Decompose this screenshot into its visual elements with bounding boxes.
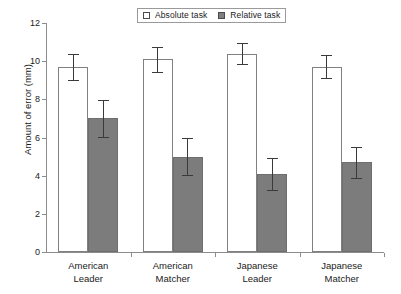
error-bar-cap-bottom <box>68 80 79 81</box>
error-bar-cap-bottom <box>98 137 109 138</box>
y-axis-tick-label: 10 <box>18 57 40 66</box>
error-bar-cap-bottom <box>237 64 248 65</box>
y-axis-tick <box>42 176 46 177</box>
error-bar-absolute-0 <box>68 54 79 81</box>
error-bar-cap-bottom <box>182 175 193 176</box>
x-axis-category-line-0: Japanese <box>209 260 305 273</box>
y-axis-tick <box>42 61 46 62</box>
y-axis-tick-label: 0 <box>18 248 40 257</box>
chart-legend: Absolute task Relative task <box>137 8 286 23</box>
error-bar-stem <box>356 147 357 178</box>
error-bar-relative-0 <box>98 100 109 136</box>
error-bar-stem <box>242 43 243 64</box>
x-axis-category-label: AmericanMatcher <box>125 260 221 285</box>
error-bar-cap-top <box>267 158 278 159</box>
error-bar-stem <box>187 138 188 174</box>
error-bar-stem <box>272 158 273 190</box>
error-bar-cap-top <box>321 55 332 56</box>
x-axis-category-label: JapaneseMatcher <box>294 260 390 285</box>
x-axis-tick <box>131 253 132 257</box>
x-axis-category-line-1: Matcher <box>294 273 390 286</box>
x-axis-category-line-1: Leader <box>209 273 305 286</box>
error-bar-stem <box>103 100 104 136</box>
y-axis-tick-label: 6 <box>18 133 40 142</box>
y-axis-tick-labels: 024681012 <box>18 0 40 294</box>
x-axis-category-line-0: Japanese <box>294 260 390 273</box>
error-bar-absolute-3 <box>321 55 332 78</box>
y-axis-tick <box>42 138 46 139</box>
error-bar-cap-top <box>98 100 109 101</box>
x-axis-category-line-0: American <box>125 260 221 273</box>
error-bar-relative-1 <box>182 138 193 174</box>
y-axis-tick <box>42 23 46 24</box>
y-axis-tick <box>42 214 46 215</box>
error-bar-stem <box>73 54 74 81</box>
bar-absolute-0 <box>58 67 88 252</box>
error-bar-cap-top <box>182 138 193 139</box>
error-bar-cap-top <box>237 43 248 44</box>
x-axis-tick <box>384 253 385 257</box>
error-bar-cap-top <box>152 47 163 48</box>
bar-absolute-2 <box>227 54 257 252</box>
error-bar-absolute-1 <box>152 47 163 72</box>
y-axis-tick <box>42 252 46 253</box>
y-axis-line <box>46 23 47 252</box>
error-bar-relative-3 <box>351 147 362 178</box>
filled-square-swatch-icon <box>218 12 225 19</box>
error-bar-cap-bottom <box>152 72 163 73</box>
bar-absolute-3 <box>312 67 342 252</box>
bar-absolute-1 <box>143 59 173 252</box>
open-square-swatch-icon <box>143 12 150 19</box>
y-axis-tick <box>42 99 46 100</box>
error-bar-cap-bottom <box>351 178 362 179</box>
legend-entry-relative-task: Relative task <box>218 11 280 20</box>
x-axis-tick <box>300 253 301 257</box>
legend-label-absolute-task: Absolute task <box>155 11 207 20</box>
legend-entry-absolute-task: Absolute task <box>143 11 207 20</box>
plot-area: AmericanLeaderAmericanMatcherJapaneseLea… <box>46 23 384 252</box>
error-bar-stem <box>326 55 327 78</box>
y-axis-tick-label: 8 <box>18 95 40 104</box>
y-axis-tick-label: 2 <box>18 209 40 218</box>
error-bar-cap-top <box>68 54 79 55</box>
y-axis-tick-label: 12 <box>18 19 40 28</box>
x-axis-category-label: AmericanLeader <box>40 260 136 285</box>
x-axis-category-label: JapaneseLeader <box>209 260 305 285</box>
bar-chart-figure: Absolute task Relative task Amount of er… <box>0 0 401 294</box>
error-bar-absolute-2 <box>237 43 248 64</box>
error-bar-cap-bottom <box>321 78 332 79</box>
error-bar-cap-bottom <box>267 190 278 191</box>
x-axis-category-line-1: Leader <box>40 273 136 286</box>
x-axis-category-line-0: American <box>40 260 136 273</box>
x-axis-tick <box>215 253 216 257</box>
y-axis-tick-label: 4 <box>18 171 40 180</box>
legend-label-relative-task: Relative task <box>230 11 280 20</box>
error-bar-relative-2 <box>267 158 278 190</box>
bar-relative-0 <box>88 118 118 252</box>
error-bar-stem <box>157 47 158 72</box>
x-axis-category-line-1: Matcher <box>125 273 221 286</box>
error-bar-cap-top <box>351 147 362 148</box>
